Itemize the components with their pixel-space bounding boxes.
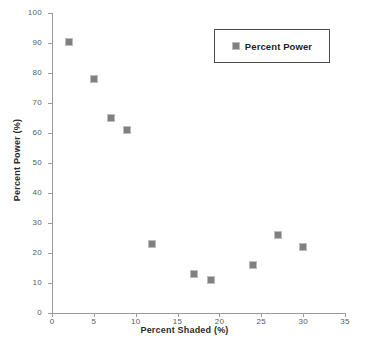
y-tick-mark [48, 73, 52, 74]
data-point [207, 276, 215, 284]
y-tick-label: 20 [12, 248, 42, 257]
y-tick-mark [48, 193, 52, 194]
legend: Percent Power [214, 29, 330, 63]
legend-label: Percent Power [245, 41, 312, 52]
y-tick-label: 80 [12, 68, 42, 77]
data-point [65, 38, 73, 46]
x-axis-title: Percent Shaded (%) [0, 325, 369, 335]
y-tick-label: 100 [12, 8, 42, 17]
y-tick-mark [48, 253, 52, 254]
data-point [299, 243, 307, 251]
data-point [274, 231, 282, 239]
data-point [249, 261, 257, 269]
y-tick-mark [48, 103, 52, 104]
y-tick-mark [48, 313, 52, 314]
y-tick-mark [48, 43, 52, 44]
data-point [148, 240, 156, 248]
data-point [90, 75, 98, 83]
y-axis-line [52, 13, 53, 314]
y-tick-label: 10 [12, 278, 42, 287]
y-tick-mark [48, 13, 52, 14]
legend-swatch-icon [232, 42, 240, 50]
y-tick-mark [48, 223, 52, 224]
y-tick-mark [48, 283, 52, 284]
scatter-chart: 05101520253035 0102030405060708090100 Pe… [0, 0, 369, 344]
y-axis-title: Percent Power (%) [12, 95, 22, 225]
y-tick-label: 0 [12, 308, 42, 317]
y-tick-mark [48, 133, 52, 134]
data-point [107, 114, 115, 122]
y-tick-label: 90 [12, 38, 42, 47]
data-point [190, 270, 198, 278]
data-point [123, 126, 131, 134]
y-tick-mark [48, 163, 52, 164]
x-axis-line [52, 313, 346, 314]
